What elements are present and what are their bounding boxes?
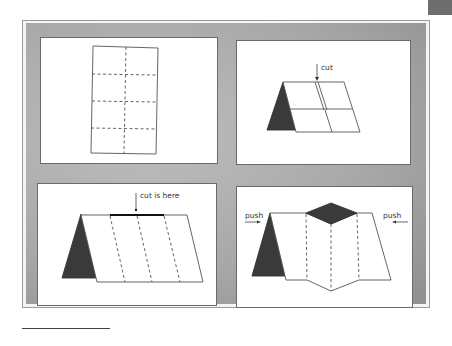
push-right-label: push	[383, 211, 401, 220]
cut-is-here-label: cut is here	[140, 191, 180, 200]
footnote-rule	[22, 328, 110, 329]
cut-label: cut	[321, 63, 333, 72]
tent-cut-here	[62, 193, 203, 282]
flat-sheet	[91, 46, 158, 154]
tent-cut	[267, 64, 360, 132]
push-left-label: push	[245, 211, 263, 220]
fold-diagram: cut cut is here push push	[0, 0, 452, 346]
